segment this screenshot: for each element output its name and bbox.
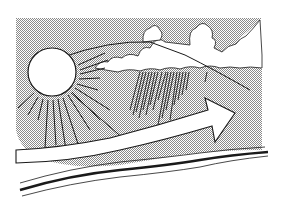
illustration-svg bbox=[0, 0, 286, 218]
sun bbox=[28, 48, 76, 96]
weather-illustration bbox=[0, 0, 286, 218]
